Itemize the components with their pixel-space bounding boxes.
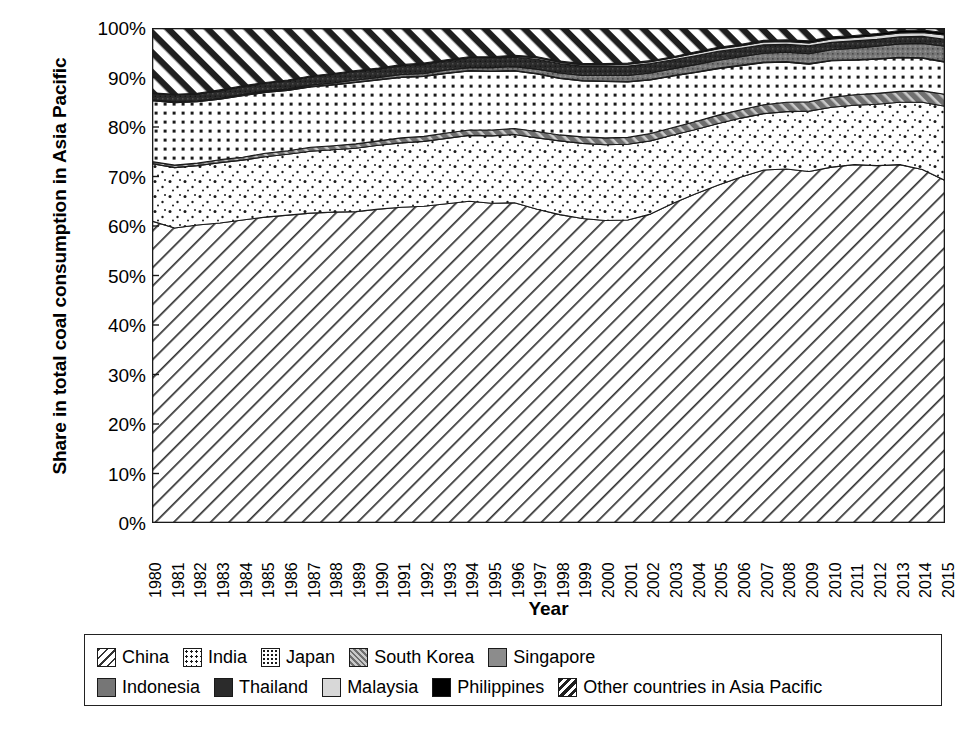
legend-swatch-black-solid-icon	[432, 678, 451, 697]
y-tick-label: 90%	[84, 68, 146, 87]
x-axis-tick-labels: 1980198119821983198419851986198719881989…	[152, 528, 945, 600]
y-axis-title: Share in total coal consumption in Asia …	[49, 6, 71, 526]
x-tick-label: 1993	[443, 528, 459, 598]
y-axis-tick-labels: 0%10%20%30%40%50%60%70%80%90%100%	[82, 0, 146, 732]
x-tick-label: 1996	[511, 528, 527, 598]
y-tick-label: 20%	[84, 415, 146, 434]
plot-area	[152, 28, 945, 523]
legend-label: South Korea	[374, 648, 474, 666]
legend-label: Other countries in Asia Pacific	[583, 678, 822, 696]
x-tick-label: 2006	[737, 528, 753, 598]
y-tick-label: 40%	[84, 316, 146, 335]
x-tick-label: 1988	[329, 528, 345, 598]
x-tick-label: 1995	[488, 528, 504, 598]
y-tick-label: 10%	[84, 464, 146, 483]
x-tick-label: 1981	[171, 528, 187, 598]
x-tick-label: 1980	[148, 528, 164, 598]
legend-swatch-gray-solid-icon	[488, 648, 507, 667]
x-tick-label: 1994	[465, 528, 481, 598]
legend-item-south-korea[interactable]: South Korea	[349, 648, 474, 667]
x-tick-label: 1986	[284, 528, 300, 598]
x-tick-label: 1992	[420, 528, 436, 598]
x-tick-label: 2001	[624, 528, 640, 598]
stacked-area-chart: Share in total coal consumption in Asia …	[0, 0, 980, 732]
legend-swatch-light-gray-solid-icon	[322, 678, 341, 697]
legend-label: Philippines	[457, 678, 544, 696]
legend-label: China	[122, 648, 169, 666]
y-tick-label: 50%	[84, 266, 146, 285]
x-tick-label: 2011	[850, 528, 866, 598]
legend-item-india[interactable]: India	[183, 648, 247, 667]
x-tick-label: 2008	[782, 528, 798, 598]
x-tick-label: 1987	[307, 528, 323, 598]
x-tick-label: 2000	[601, 528, 617, 598]
x-tick-label: 2005	[714, 528, 730, 598]
legend-item-malaysia[interactable]: Malaysia	[322, 678, 418, 697]
y-tick-label: 0%	[84, 514, 146, 533]
y-tick-label: 30%	[84, 365, 146, 384]
y-tick-label: 60%	[84, 217, 146, 236]
legend-swatch-diagonal-lines-icon	[97, 648, 116, 667]
y-tick-label: 70%	[84, 167, 146, 186]
x-tick-label: 1984	[239, 528, 255, 598]
x-tick-label: 1985	[261, 528, 277, 598]
x-tick-label: 2004	[692, 528, 708, 598]
x-tick-label: 1998	[556, 528, 572, 598]
legend-swatch-dark-texture-icon	[214, 678, 233, 697]
y-tick-label: 100%	[84, 19, 146, 38]
legend-row: IndonesiaThailandMalaysiaPhilippinesOthe…	[97, 672, 931, 702]
x-tick-label: 2009	[805, 528, 821, 598]
x-tick-label: 1997	[533, 528, 549, 598]
legend-label: Malaysia	[347, 678, 418, 696]
x-axis-title: Year	[152, 598, 945, 620]
x-tick-label: 2012	[873, 528, 889, 598]
legend-item-japan[interactable]: Japan	[261, 648, 335, 667]
x-tick-label: 2014	[918, 528, 934, 598]
x-tick-label: 2002	[646, 528, 662, 598]
legend-item-philippines[interactable]: Philippines	[432, 678, 544, 697]
legend-item-china[interactable]: China	[97, 648, 169, 667]
legend-label: Japan	[286, 648, 335, 666]
legend-item-thailand[interactable]: Thailand	[214, 678, 308, 697]
legend-label: India	[208, 648, 247, 666]
x-tick-label: 1983	[216, 528, 232, 598]
x-tick-label: 2010	[828, 528, 844, 598]
legend-row: ChinaIndiaJapanSouth KoreaSingapore	[97, 642, 931, 672]
legend-label: Indonesia	[122, 678, 200, 696]
x-tick-label: 1991	[397, 528, 413, 598]
legend-swatch-dot-grid-icon	[261, 648, 280, 667]
x-tick-label: 1990	[375, 528, 391, 598]
x-tick-label: 1999	[578, 528, 594, 598]
x-tick-label: 2015	[941, 528, 957, 598]
legend-item-other-countries-in-asia-pacific[interactable]: Other countries in Asia Pacific	[558, 678, 822, 697]
legend-swatch-light-diagonal-icon	[349, 648, 368, 667]
plot-svg	[152, 28, 945, 523]
legend-item-singapore[interactable]: Singapore	[488, 648, 595, 667]
x-tick-label: 2003	[669, 528, 685, 598]
x-tick-label: 2013	[896, 528, 912, 598]
legend-label: Thailand	[239, 678, 308, 696]
legend-label: Singapore	[513, 648, 595, 666]
chart-legend: ChinaIndiaJapanSouth KoreaSingaporeIndon…	[84, 634, 942, 706]
x-tick-label: 1989	[352, 528, 368, 598]
area-band-china	[152, 165, 945, 523]
legend-swatch-mid-gray-texture-icon	[97, 678, 116, 697]
legend-swatch-steep-diagonal-icon	[558, 678, 577, 697]
legend-swatch-sparse-dots-icon	[183, 648, 202, 667]
y-tick-label: 80%	[84, 118, 146, 137]
x-tick-label: 2007	[760, 528, 776, 598]
legend-item-indonesia[interactable]: Indonesia	[97, 678, 200, 697]
x-tick-label: 1982	[193, 528, 209, 598]
